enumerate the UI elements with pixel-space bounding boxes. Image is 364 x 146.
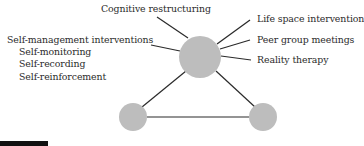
bottom-left-node — [119, 103, 147, 131]
label-peer-group-meetings: Peer group meetings — [257, 34, 354, 46]
connector-self-management — [151, 45, 180, 51]
intervention-diagram: Cognitive restructuring Self-management … — [0, 0, 364, 146]
black-bar-divider — [0, 141, 48, 146]
label-self-monitoring: Self-monitoring — [19, 46, 91, 58]
connector-cognitive — [157, 17, 188, 38]
label-self-reinforcement: Self-reinforcement — [19, 71, 106, 83]
edge-top-right — [216, 71, 255, 107]
connector-peer-group — [220, 40, 250, 49]
edge-top-left — [142, 71, 186, 107]
label-reality-therapy: Reality therapy — [257, 54, 328, 66]
center-node — [179, 36, 221, 78]
bottom-right-node — [249, 103, 277, 131]
connector-life-space — [217, 20, 250, 44]
label-self-recording: Self-recording — [19, 58, 85, 70]
label-self-management: Self-management interventions — [7, 34, 153, 46]
label-cognitive-restructuring: Cognitive restructuring — [101, 3, 211, 15]
label-life-space-intervention: Life space intervention — [257, 13, 364, 25]
connector-reality — [221, 56, 251, 60]
